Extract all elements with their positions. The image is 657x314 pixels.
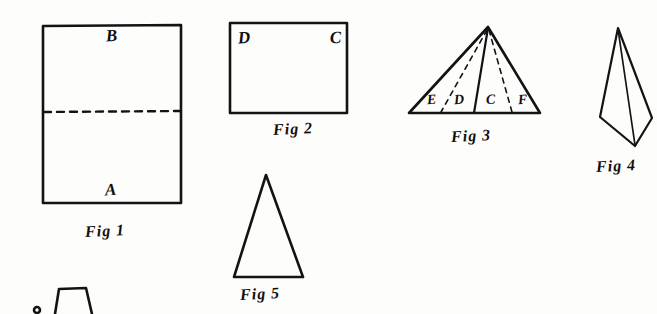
fig3-label-d: D — [453, 92, 465, 109]
fig1-rectangle-outline — [43, 25, 181, 203]
fig4-caption: Fig 4 — [596, 156, 637, 176]
fig1-label-a: A — [104, 180, 117, 201]
fig1-label-b: B — [105, 26, 118, 47]
fig1-fold-line-dashed — [44, 111, 180, 112]
fig6-trapezoid-cropped-outline — [55, 288, 92, 314]
fig4-drawing — [600, 28, 652, 146]
fig6-ink-dot — [34, 307, 40, 313]
fig5-drawing — [234, 175, 303, 277]
fig3-label-f: F — [517, 92, 528, 109]
fig1-caption: Fig 1 — [85, 221, 126, 241]
figure-plate: B A Fig 1 D C Fig 2 E D C F Fig 3 Fig 4 … — [0, 0, 657, 314]
fig1-drawing — [43, 25, 181, 203]
fig2-label-c: C — [329, 28, 342, 49]
fig6-partial-drawing — [34, 288, 92, 314]
fig5-triangle-outline — [234, 175, 303, 277]
fig5-caption: Fig 5 — [240, 284, 281, 304]
figure-drawing-layer — [0, 0, 657, 314]
fig3-label-e: E — [426, 92, 437, 109]
fig3-label-c: C — [485, 92, 496, 109]
fig2-label-d: D — [237, 28, 251, 49]
fig3-caption: Fig 3 — [451, 126, 492, 146]
fig4-center-vertical-line — [618, 29, 635, 145]
fig2-caption: Fig 2 — [273, 119, 314, 139]
